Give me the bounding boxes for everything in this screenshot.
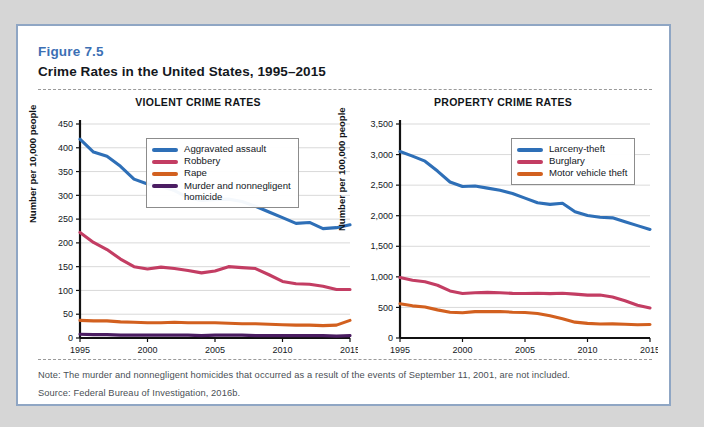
y-tick-label: 200 (58, 238, 73, 248)
divider-top (38, 89, 652, 90)
legend-item: Larceny-theft (517, 143, 627, 154)
legend-item: Motor vehicle theft (517, 167, 627, 178)
y-tick-label: 2,000 (370, 211, 393, 221)
y-tick-label: 0 (388, 333, 393, 343)
legend-label: Murder and nonnegligent homicide (184, 180, 291, 202)
legend-item: Murder and nonnegligent homicide (152, 180, 291, 202)
legend-property: Larceny-theftBurglaryMotor vehicle theft (511, 138, 635, 185)
x-tick-label: 2000 (452, 345, 472, 355)
y-tick-label: 400 (58, 143, 73, 153)
y-tick-label: 100 (58, 286, 73, 296)
series-line (400, 304, 650, 325)
figure-number: Figure 7.5 (38, 44, 104, 59)
figure-source: Source: Federal Bureau of Investigation,… (38, 388, 240, 398)
y-tick-label: 3,000 (370, 150, 393, 160)
y-tick-label: 450 (58, 119, 73, 129)
legend-label: Aggravated assault (184, 143, 266, 154)
x-tick-label: 1995 (70, 345, 90, 355)
series-line (80, 320, 350, 325)
legend-violent: Aggravated assaultRobberyRapeMurder and … (146, 138, 299, 208)
legend-swatch (152, 172, 178, 176)
panel-title-violent: VIOLENT CRIME RATES (38, 96, 358, 108)
legend-swatch (517, 172, 543, 176)
series-line (80, 334, 350, 336)
y-tick-label: 350 (58, 167, 73, 177)
legend-swatch (152, 148, 178, 152)
legend-swatch (152, 160, 178, 164)
series-line (400, 278, 650, 308)
legend-label: Larceny-theft (549, 143, 605, 154)
page-background: Figure 7.5 Crime Rates in the United Sta… (0, 0, 704, 427)
y-tick-label: 0 (68, 333, 73, 343)
x-tick-label: 2000 (137, 345, 157, 355)
legend-label: Rape (184, 167, 207, 178)
legend-swatch (517, 160, 543, 164)
legend-label: Motor vehicle theft (549, 167, 627, 178)
y-tick-label: 2,500 (370, 180, 393, 190)
x-tick-label: 2005 (205, 345, 225, 355)
x-tick-label: 2015 (640, 345, 658, 355)
x-tick-label: 2010 (272, 345, 292, 355)
y-tick-label: 300 (58, 191, 73, 201)
y-tick-label: 500 (378, 303, 393, 313)
y-axis-title-violent: Number per 10,000 people (27, 105, 38, 223)
legend-item: Rape (152, 167, 291, 178)
figure-note: Note: The murder and nonnegligent homici… (38, 370, 570, 380)
figure-title: Crime Rates in the United States, 1995–2… (38, 64, 326, 79)
legend-label: Robbery (184, 155, 220, 166)
y-tick-label: 150 (58, 262, 73, 272)
legend-item: Robbery (152, 155, 291, 166)
x-tick-label: 2005 (515, 345, 535, 355)
y-axis-title-property: Number per 100,000 people (336, 107, 347, 231)
legend-item: Aggravated assault (152, 143, 291, 154)
divider-bottom (38, 359, 652, 360)
x-tick-label: 1995 (390, 345, 410, 355)
y-tick-label: 1,500 (370, 241, 393, 251)
y-tick-label: 250 (58, 214, 73, 224)
y-tick-label: 3,500 (370, 119, 393, 129)
series-line (80, 232, 350, 289)
x-tick-label: 2010 (577, 345, 597, 355)
legend-label: Burglary (549, 155, 585, 166)
legend-swatch (152, 184, 178, 188)
panel-title-property: PROPERTY CRIME RATES (348, 96, 658, 108)
y-tick-label: 1,000 (370, 272, 393, 282)
y-tick-label: 50 (63, 309, 73, 319)
figure-card: Figure 7.5 Crime Rates in the United Sta… (16, 24, 671, 406)
legend-swatch (517, 148, 543, 152)
legend-item: Burglary (517, 155, 627, 166)
